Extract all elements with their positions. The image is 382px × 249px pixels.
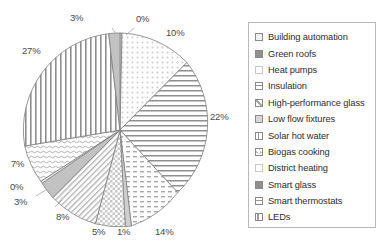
pie-label-9: 0%	[10, 181, 23, 192]
pie-label-10: 7%	[11, 158, 24, 169]
legend-label-building-automation: Building automation	[268, 32, 348, 42]
legend-label-heat-pumps: Heat pumps	[268, 65, 317, 75]
legend-label-insulation: Insulation	[268, 81, 307, 91]
legend-item-biogas-cooking[interactable]: Biogas cooking	[255, 144, 375, 160]
legend-item-leds[interactable]: LEDs	[255, 209, 375, 225]
pie-chart-svg	[0, 0, 240, 249]
pie-label-0: 3%	[70, 12, 83, 23]
chart-legend: Building automation Green roofs Heat pum…	[248, 22, 376, 228]
pie-label-7: 8%	[56, 211, 69, 222]
legend-item-solar-hot-water[interactable]: Solar hot water	[255, 127, 375, 143]
legend-label-green-roofs: Green roofs	[268, 49, 316, 59]
legend-swatch-building-automation	[255, 33, 263, 41]
legend-swatch-heat-pumps	[255, 66, 263, 74]
pie-slices	[23, 33, 207, 227]
pie-label-5: 1%	[117, 226, 130, 237]
legend-swatch-insulation	[255, 82, 263, 90]
legend-item-insulation[interactable]: Insulation	[255, 78, 375, 94]
legend-swatch-biogas-cooking	[255, 148, 263, 156]
legend-label-district-heating: District heating	[268, 163, 328, 173]
pie-chart-area: 3% 0% 10% 22% 14% 1% 5% 8% 3% 0% 7% 27%	[0, 0, 240, 249]
legend-label-smart-thermostats: Smart thermostats	[268, 196, 342, 206]
legend-item-high-performance-glass[interactable]: High-performance glass	[255, 95, 375, 111]
legend-item-heat-pumps[interactable]: Heat pumps	[255, 62, 375, 78]
legend-label-smart-glass: Smart glass	[268, 180, 316, 190]
legend-item-smart-thermostats[interactable]: Smart thermostats	[255, 193, 375, 209]
legend-label-solar-hot-water: Solar hot water	[268, 131, 329, 141]
pie-label-8: 3%	[14, 196, 27, 207]
pie-label-6: 5%	[92, 226, 105, 237]
legend-item-smart-glass[interactable]: Smart glass	[255, 177, 375, 193]
legend-swatch-low-flow-fixtures	[255, 115, 263, 123]
legend-item-district-heating[interactable]: District heating	[255, 160, 375, 176]
pie-label-1: 0%	[136, 13, 149, 24]
legend-item-green-roofs[interactable]: Green roofs	[255, 45, 375, 61]
legend-swatch-smart-thermostats	[255, 197, 263, 205]
pie-label-11: 27%	[22, 45, 40, 56]
legend-item-low-flow-fixtures[interactable]: Low flow fixtures	[255, 111, 375, 127]
legend-swatch-leds	[255, 213, 263, 221]
legend-label-leds: LEDs	[268, 212, 290, 222]
legend-item-building-automation[interactable]: Building automation	[255, 29, 375, 45]
legend-label-high-performance-glass: High-performance glass	[268, 98, 365, 108]
legend-label-biogas-cooking: Biogas cooking	[268, 147, 330, 157]
legend-swatch-solar-hot-water	[255, 132, 263, 140]
legend-swatch-green-roofs	[255, 50, 263, 58]
legend-swatch-high-performance-glass	[255, 99, 263, 107]
pie-label-3: 22%	[210, 111, 228, 122]
legend-swatch-smart-glass	[255, 181, 263, 189]
pie-label-2: 10%	[166, 27, 184, 38]
legend-label-low-flow-fixtures: Low flow fixtures	[268, 114, 335, 124]
pie-label-4: 14%	[155, 226, 173, 237]
legend-swatch-district-heating	[255, 164, 263, 172]
